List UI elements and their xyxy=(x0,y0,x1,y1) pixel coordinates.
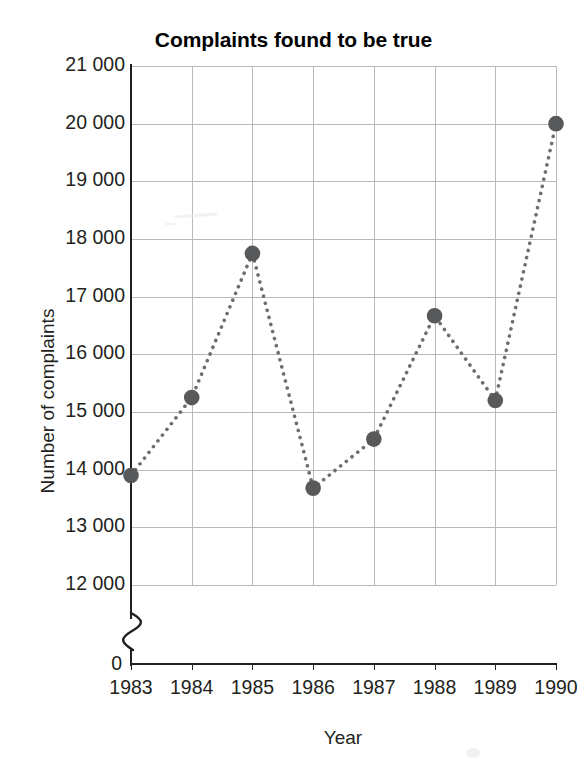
gridline-vertical xyxy=(313,66,314,585)
gridline-horizontal xyxy=(131,585,556,586)
gridline-horizontal xyxy=(131,181,556,182)
y-tick-label: 14 000 xyxy=(5,457,125,480)
scan-artifact xyxy=(165,223,177,225)
x-axis-line xyxy=(130,663,556,665)
y-tick-label: 20 000 xyxy=(5,111,125,134)
x-axis-tick-labels: 19831984198519861987198819891990 xyxy=(0,676,587,710)
gridline-horizontal xyxy=(131,66,556,67)
gridline-horizontal xyxy=(131,412,556,413)
y-tick-label: 13 000 xyxy=(5,514,125,537)
y-tick-label: 17 000 xyxy=(5,284,125,307)
gridline-vertical xyxy=(556,66,557,585)
y-axis-origin-label: 0 xyxy=(60,652,122,675)
gridline-vertical xyxy=(435,66,436,585)
x-axis-title: Year xyxy=(128,727,558,749)
plot-area xyxy=(131,66,556,585)
axis-break-icon xyxy=(118,612,154,654)
gridline-vertical xyxy=(374,66,375,585)
gridline-vertical xyxy=(495,66,496,585)
y-tick-label: 12 000 xyxy=(5,572,125,595)
x-tick-mark xyxy=(556,663,557,670)
y-tick-label: 19 000 xyxy=(5,168,125,191)
gridline-vertical xyxy=(192,66,193,585)
x-tick-mark xyxy=(374,663,375,670)
y-tick-label: 18 000 xyxy=(5,226,125,249)
y-tick-label: 16 000 xyxy=(5,341,125,364)
x-tick-mark xyxy=(252,663,253,670)
gridline-horizontal xyxy=(131,297,556,298)
x-tick-mark xyxy=(313,663,314,670)
gridline-horizontal xyxy=(131,239,556,240)
gridline-horizontal xyxy=(131,527,556,528)
y-tick-label: 21 000 xyxy=(5,53,125,76)
chart-figure: Complaints found to be true Number of co… xyxy=(0,0,587,773)
gridline-vertical xyxy=(252,66,253,585)
gridline-horizontal xyxy=(131,124,556,125)
x-tick-mark xyxy=(131,663,132,670)
x-tick-label: 1990 xyxy=(516,676,587,699)
x-tick-mark xyxy=(192,663,193,670)
y-tick-label: 15 000 xyxy=(5,399,125,422)
x-tick-mark xyxy=(435,663,436,670)
y-axis-line-upper xyxy=(130,64,132,619)
y-axis-tick-labels: 21 00020 00019 00018 00017 00016 00015 0… xyxy=(0,0,125,680)
x-tick-mark xyxy=(495,663,496,670)
gridline-horizontal xyxy=(131,470,556,471)
gridline-horizontal xyxy=(131,354,556,355)
scan-artifact xyxy=(466,748,480,758)
